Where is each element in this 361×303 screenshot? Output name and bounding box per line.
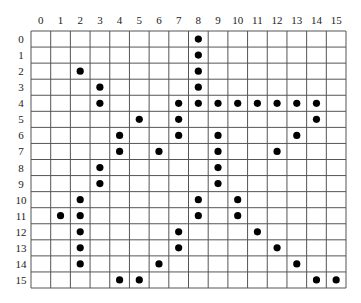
marked-dot (96, 84, 103, 91)
marked-dot (273, 100, 280, 107)
row-label: 10 (16, 194, 28, 206)
marked-dot (234, 100, 241, 107)
marked-dot (77, 68, 84, 75)
marked-dot (155, 260, 162, 267)
marked-dot (195, 68, 202, 75)
marked-dot (136, 276, 143, 283)
marked-dot (273, 244, 280, 251)
marked-dot (293, 260, 300, 267)
marked-dot (214, 100, 221, 107)
row-label: 3 (18, 81, 24, 93)
marked-dot (155, 148, 162, 155)
marked-dot (254, 100, 261, 107)
column-label: 12 (272, 14, 283, 26)
row-label: 11 (16, 210, 27, 222)
marked-dot (214, 132, 221, 139)
row-label: 9 (18, 178, 24, 190)
column-label: 10 (232, 14, 244, 26)
marked-dot (96, 100, 103, 107)
row-label: 0 (18, 33, 24, 45)
row-label: 12 (16, 226, 27, 238)
column-label: 0 (38, 14, 44, 26)
marked-dot (116, 132, 123, 139)
marked-dot (77, 260, 84, 267)
column-label: 13 (291, 14, 303, 26)
row-label: 8 (18, 162, 24, 174)
column-label: 15 (331, 14, 343, 26)
marked-dot (293, 132, 300, 139)
marked-dot (195, 100, 202, 107)
marked-dot (273, 148, 280, 155)
marked-dot (57, 212, 64, 219)
row-label: 2 (18, 65, 24, 77)
column-label: 14 (311, 14, 323, 26)
row-label: 13 (16, 242, 28, 254)
marked-dot (214, 180, 221, 187)
marked-dot (195, 212, 202, 219)
column-label: 8 (196, 14, 202, 26)
marked-dot (195, 35, 202, 42)
marked-dot (175, 244, 182, 251)
marked-dot (195, 51, 202, 58)
column-label: 1 (58, 14, 64, 26)
row-labels: 0123456789101112131415 (16, 33, 28, 286)
column-label: 2 (77, 14, 83, 26)
marked-dot (195, 84, 202, 91)
column-label: 4 (117, 14, 123, 26)
marked-dot (136, 116, 143, 123)
row-label: 5 (18, 113, 24, 125)
column-label: 5 (137, 14, 143, 26)
column-label: 6 (156, 14, 162, 26)
marked-dot (175, 228, 182, 235)
marked-dot (77, 228, 84, 235)
marked-dot (293, 100, 300, 107)
dot-grid-diagram: 0123456789101112131415 01234567891011121… (0, 0, 361, 303)
marked-dot (214, 164, 221, 171)
column-label: 9 (215, 14, 221, 26)
marked-dot (313, 116, 320, 123)
marked-dot (234, 212, 241, 219)
marked-dot (254, 228, 261, 235)
marked-dot (313, 100, 320, 107)
row-label: 7 (18, 145, 24, 157)
marked-dot (77, 244, 84, 251)
marked-dot (77, 196, 84, 203)
marked-dot (214, 148, 221, 155)
column-labels: 0123456789101112131415 (38, 14, 342, 26)
marked-dot (175, 132, 182, 139)
marked-dot (175, 116, 182, 123)
marked-dot (195, 196, 202, 203)
marked-dot (175, 100, 182, 107)
row-label: 14 (16, 258, 28, 270)
marked-dot (234, 196, 241, 203)
marked-dot (116, 276, 123, 283)
marked-dot (116, 148, 123, 155)
marked-dot (96, 164, 103, 171)
row-label: 6 (18, 129, 24, 141)
row-label: 15 (16, 274, 28, 286)
marked-dot (77, 212, 84, 219)
column-label: 7 (176, 14, 182, 26)
marked-dot (333, 276, 340, 283)
marked-dot (96, 180, 103, 187)
column-label: 11 (252, 14, 263, 26)
marked-dot (313, 276, 320, 283)
column-label: 3 (97, 14, 103, 26)
row-label: 4 (18, 97, 24, 109)
row-label: 1 (18, 49, 24, 61)
